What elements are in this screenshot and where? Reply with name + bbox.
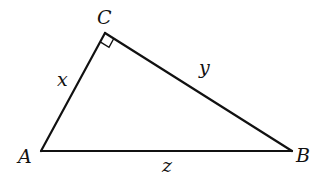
side-label-x: x — [57, 68, 68, 90]
triangle-sides — [41, 33, 292, 151]
side-ac — [41, 33, 105, 151]
side-cb — [105, 33, 292, 151]
vertex-label-b: B — [295, 144, 310, 166]
vertex-label-a: A — [16, 145, 32, 167]
side-label-z: z — [161, 154, 173, 176]
side-label-y: y — [198, 56, 210, 78]
triangle-diagram: C A B x y z — [0, 0, 330, 195]
vertex-label-c: C — [97, 6, 112, 28]
